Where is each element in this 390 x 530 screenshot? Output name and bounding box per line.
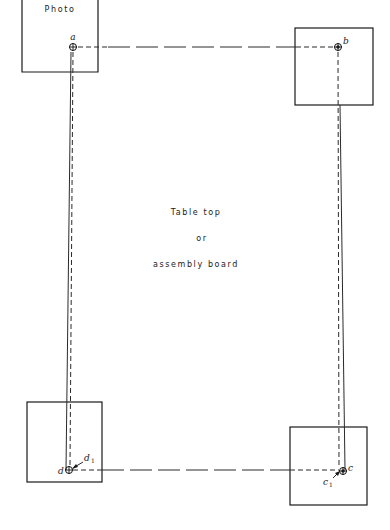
line-b-c-solid: [340, 105, 345, 470]
point-label-c1: c: [323, 477, 328, 487]
target-marker-d: d d 1: [58, 453, 95, 476]
point-label-b: b: [343, 36, 349, 46]
center-text-line2: or: [196, 234, 207, 243]
point-sub-d1: 1: [91, 457, 95, 464]
point-sub-c1: 1: [329, 481, 333, 488]
center-text-line3: assembly board: [153, 260, 239, 269]
assembly-diagram: Photo a b d d 1: [0, 0, 390, 530]
photo-label: Photo: [45, 5, 76, 14]
line-b-c-dashed: [338, 52, 339, 467]
point-label-d1: d: [84, 453, 90, 463]
target-marker-c: c c 1: [323, 463, 353, 488]
point-label-c: c: [348, 463, 353, 473]
point-label-d: d: [58, 466, 64, 476]
arrow-head-d1: [72, 464, 78, 469]
center-text-line1: Table top: [170, 208, 222, 217]
target-marker-b: b: [334, 36, 349, 51]
photo-box-c: [290, 427, 367, 505]
point-label-a: a: [70, 32, 75, 42]
photo-box-a: Photo: [22, 0, 98, 72]
target-marker-a: a: [69, 32, 77, 51]
photo-box-b: [295, 28, 373, 105]
